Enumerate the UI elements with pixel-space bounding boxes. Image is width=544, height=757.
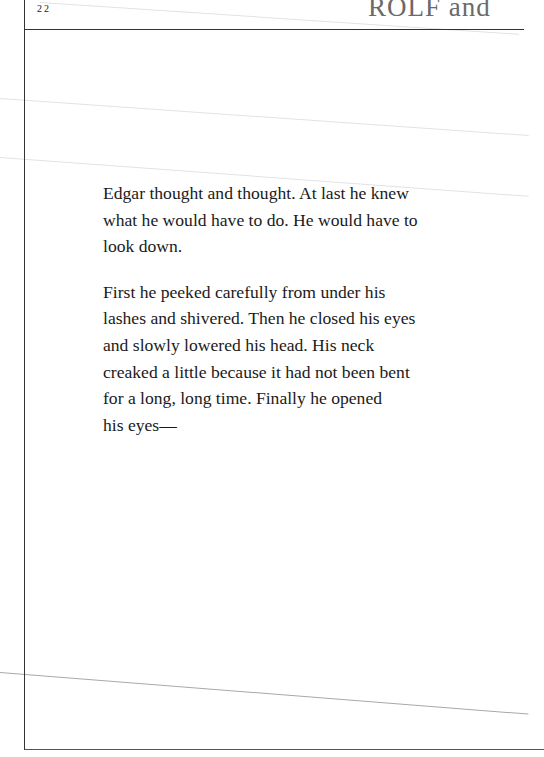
running-title: ROLF and [368, 0, 491, 23]
paragraph: First he peeked carefully from under his… [103, 279, 513, 439]
page-number: 22 [37, 3, 51, 14]
story-text: Edgar thought and thought. At last he kn… [103, 180, 513, 457]
header-rule [24, 29, 524, 30]
paragraph: Edgar thought and thought. At last he kn… [103, 180, 513, 260]
